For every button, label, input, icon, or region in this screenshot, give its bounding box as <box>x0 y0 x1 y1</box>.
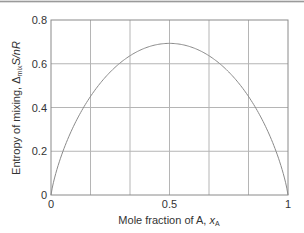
y-tick-label: 0.2 <box>32 145 47 157</box>
entropy-of-mixing-chart: 00.20.40.60.8 00.51 Mole fraction of A, … <box>0 0 304 233</box>
x-axis-label: Mole fraction of A, xA <box>118 214 220 227</box>
x-tick-label: 1 <box>285 198 291 210</box>
x-tick-label: 0 <box>48 198 54 210</box>
y-tick-label: 0.8 <box>32 14 47 26</box>
gridlines <box>51 20 288 195</box>
x-tick-label: 0.5 <box>162 198 177 210</box>
y-tick-label: 0.6 <box>32 58 47 70</box>
y-axis-label: Entropy of mixing, ΔmixS/nR <box>10 41 23 175</box>
y-tick-label: 0 <box>41 189 47 201</box>
y-axis-ticks: 00.20.40.60.8 <box>32 14 47 201</box>
x-axis-ticks: 00.51 <box>48 198 291 210</box>
y-tick-label: 0.4 <box>32 102 47 114</box>
